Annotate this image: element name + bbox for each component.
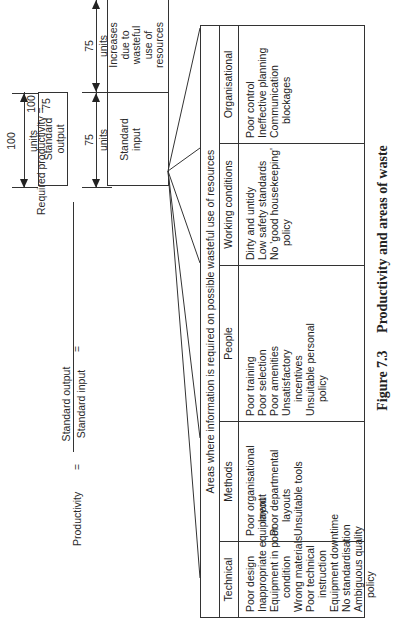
list-item: Poor design [244,546,256,612]
column-title: Working conditions [219,144,239,265]
waste-areas-table: Areas where information is required on p… [200,25,365,618]
list-item: No 'good housekeeping' [268,148,280,260]
column-people: People Poor training Poor selection Poor… [219,266,364,422]
list-item: Dirty and untidy [244,148,256,260]
list-item: Poor departmental [268,426,280,536]
list-item: layout [256,426,268,536]
list-item: Ambiguous quality [352,546,364,612]
list-item: incentives [292,270,304,416]
list-item: Poor training [244,270,256,416]
column-title: People [219,266,239,421]
list-item: Low safety standards [256,148,268,260]
list-item: No standardisation [340,546,352,612]
column-title: Technical [219,542,239,617]
list-item: Poor technical [304,546,316,612]
list-item: instruction [316,546,328,612]
list-item: layouts [280,426,292,536]
column-working-conditions: Working conditions Dirty and untidy Low … [219,144,364,266]
list-item: policy [364,546,376,612]
column-technical: Technical Poor design Inappropriate equi… [219,542,364,617]
column-methods: Methods Poor organisational layout Poor … [219,422,364,542]
column-title: Organisational [219,26,239,143]
list-item: Poor selection [256,270,268,416]
list-item: condition [280,546,292,612]
list-item: Ineffective planning [256,30,268,138]
list-item: Inappropriate equipment [256,546,268,612]
list-item: Poor control [244,30,256,138]
figure-title: Productivity and areas of waste [375,145,390,333]
column-organisational: Organisational Poor control Ineffective … [219,26,364,144]
list-item: Unsatisfactory [280,270,292,416]
table-header: Areas where information is required on p… [201,26,220,617]
list-item: policy [280,148,292,260]
figure-number: Figure 7.3 [375,350,390,410]
list-item: Poor organisational [244,426,256,536]
list-item: blockages [280,30,292,138]
rotated-figure: Productivity = Standard output Standard … [0,0,396,618]
list-item: Communication [268,30,280,138]
list-item: Wrong materials [292,546,304,612]
list-item: Poor amenities [268,270,280,416]
column-title: Methods [219,422,239,541]
list-item: Unsuitable tools [292,426,304,536]
list-item: Equipment downtime [328,546,340,612]
list-item: policy [316,270,328,416]
list-item: Unsuitable personal [304,270,316,416]
list-item: Equipment in poor [268,546,280,612]
figure-caption: Figure 7.3 Productivity and areas of was… [375,78,391,478]
